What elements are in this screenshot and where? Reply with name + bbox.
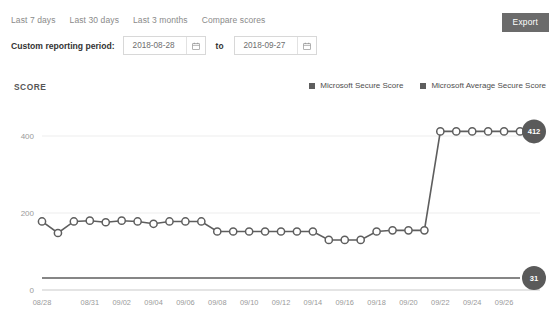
data-point[interactable] <box>86 217 93 224</box>
chart-gridlines <box>42 136 540 290</box>
tab-last-30-days[interactable]: Last 30 days <box>70 15 133 25</box>
x-tick-label: 09/26 <box>495 298 514 307</box>
tab-last-3-months[interactable]: Last 3 months <box>133 15 202 25</box>
data-point[interactable] <box>166 218 173 225</box>
tab-compare-scores[interactable]: Compare scores <box>202 15 280 25</box>
data-point[interactable] <box>70 218 77 225</box>
range-tabs: Last 7 days Last 30 days Last 3 months C… <box>11 15 279 25</box>
x-tick-label: 09/20 <box>399 298 418 307</box>
data-point[interactable] <box>389 227 396 234</box>
x-tick-label: 09/08 <box>208 298 227 307</box>
data-point[interactable] <box>293 228 300 235</box>
data-point[interactable] <box>38 218 45 225</box>
data-point[interactable] <box>373 228 380 235</box>
x-tick-label: 09/16 <box>335 298 354 307</box>
data-point[interactable] <box>134 218 141 225</box>
legend-label: Microsoft Average Secure Score <box>431 81 546 90</box>
chart-canvas: 0200400 08/2808/3109/0209/0409/0609/0809… <box>0 100 560 319</box>
data-point[interactable] <box>150 220 157 227</box>
data-point[interactable] <box>357 236 364 243</box>
calendar-icon[interactable] <box>186 37 205 54</box>
data-point[interactable] <box>469 128 476 135</box>
data-point[interactable] <box>261 228 268 235</box>
data-point[interactable] <box>54 229 61 236</box>
secure-score-line <box>42 131 520 240</box>
y-axis-ticks: 0200400 <box>21 132 35 295</box>
data-point[interactable] <box>405 227 412 234</box>
x-tick-label: 09/02 <box>112 298 131 307</box>
x-tick-label: 09/04 <box>144 298 163 307</box>
legend-item-secure-score[interactable]: Microsoft Secure Score <box>309 81 403 90</box>
x-tick-label: 09/22 <box>431 298 450 307</box>
x-axis-ticks: 08/2808/3109/0209/0409/0609/0809/1009/12… <box>33 298 514 307</box>
export-button[interactable]: Export <box>502 13 549 32</box>
data-point[interactable] <box>309 228 316 235</box>
data-point[interactable] <box>182 218 189 225</box>
data-point[interactable] <box>246 228 253 235</box>
series-end-badges: 41231 <box>522 119 546 290</box>
end-date-field[interactable]: 2018-09-27 <box>234 36 317 55</box>
page-title: SCORE <box>14 82 46 92</box>
data-point[interactable] <box>118 217 125 224</box>
period-label: Custom reporting period: <box>11 41 115 51</box>
y-tick-label: 0 <box>30 286 35 295</box>
x-tick-label: 09/06 <box>176 298 195 307</box>
calendar-icon[interactable] <box>297 37 316 54</box>
end-value-badge-label: 412 <box>528 127 541 136</box>
data-point[interactable] <box>341 236 348 243</box>
legend-swatch-icon <box>420 83 426 89</box>
data-point[interactable] <box>325 236 332 243</box>
x-tick-label: 09/18 <box>367 298 386 307</box>
legend-label: Microsoft Secure Score <box>320 81 403 90</box>
x-tick-label: 09/24 <box>463 298 482 307</box>
x-tick-label: 09/12 <box>272 298 291 307</box>
data-point[interactable] <box>230 228 237 235</box>
data-point[interactable] <box>214 228 221 235</box>
start-date-field[interactable]: 2018-08-28 <box>123 36 206 55</box>
x-tick-label: 09/10 <box>240 298 259 307</box>
y-tick-label: 200 <box>21 209 35 218</box>
start-date-value[interactable]: 2018-08-28 <box>124 37 186 54</box>
end-value-badge-label: 31 <box>530 274 539 283</box>
data-point[interactable] <box>453 128 460 135</box>
date-range-separator: to <box>216 41 224 51</box>
x-tick-label: 08/28 <box>33 298 52 307</box>
score-line-chart: 0200400 08/2808/3109/0209/0409/0609/0809… <box>0 100 560 319</box>
data-point[interactable] <box>500 128 507 135</box>
secure-score-page: Last 7 days Last 30 days Last 3 months C… <box>0 0 560 319</box>
data-point[interactable] <box>198 218 205 225</box>
y-tick-label: 400 <box>21 132 35 141</box>
x-tick-label: 09/14 <box>304 298 323 307</box>
data-point[interactable] <box>102 219 109 226</box>
series-microsoft-secure-score <box>38 128 523 244</box>
data-point[interactable] <box>437 128 444 135</box>
legend-item-average-secure-score[interactable]: Microsoft Average Secure Score <box>420 81 546 90</box>
data-point[interactable] <box>277 228 284 235</box>
data-point[interactable] <box>485 128 492 135</box>
end-date-value[interactable]: 2018-09-27 <box>235 37 297 54</box>
x-tick-label: 08/31 <box>81 298 100 307</box>
chart-legend: Microsoft Secure Score Microsoft Average… <box>309 81 546 90</box>
data-point[interactable] <box>421 227 428 234</box>
custom-reporting-period: Custom reporting period: 2018-08-28 to 2… <box>11 36 317 55</box>
tab-last-7-days[interactable]: Last 7 days <box>11 15 70 25</box>
legend-swatch-icon <box>309 83 315 89</box>
